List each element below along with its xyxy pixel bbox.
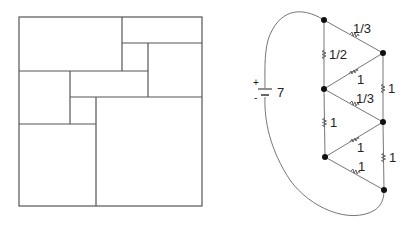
circuit-node: [380, 119, 386, 125]
battery-minus-label: -: [254, 92, 257, 103]
resistor-label-a-c: 1/2: [329, 47, 347, 62]
circuit: + - 7 1/3 1/2 1 1 1/3 1 1: [253, 12, 396, 216]
circuit-node: [322, 154, 328, 160]
resistor-label-e-f: 1: [358, 159, 365, 174]
circuit-node: [380, 50, 386, 56]
outer-rectangle: [19, 17, 202, 206]
battery-plus-label: +: [253, 77, 259, 88]
resistor-label-c-b: 1: [357, 72, 364, 87]
resistor-label-c-e: 1: [330, 115, 337, 130]
circuit-node: [381, 187, 387, 193]
resistor-label-d-f: 1: [389, 150, 396, 165]
diagram-canvas: + - 7 1/3 1/2 1 1 1/3 1 1: [0, 0, 408, 225]
wire-e-f: [325, 157, 384, 190]
battery-icon: [258, 89, 272, 95]
rectangle-tiling: [19, 17, 202, 206]
battery-voltage-label: 7: [277, 85, 284, 100]
resistor-label-c-d: 1/3: [356, 91, 374, 106]
resistor-label-a-b: 1/3: [353, 21, 371, 36]
resistor-label-b-d: 1: [388, 81, 395, 96]
circuit-node: [321, 17, 327, 23]
resistor-label-e-d: 1: [357, 140, 364, 155]
wire-d-f: [383, 122, 384, 190]
circuit-node: [321, 86, 327, 92]
wire-battery-top: [265, 12, 324, 88]
